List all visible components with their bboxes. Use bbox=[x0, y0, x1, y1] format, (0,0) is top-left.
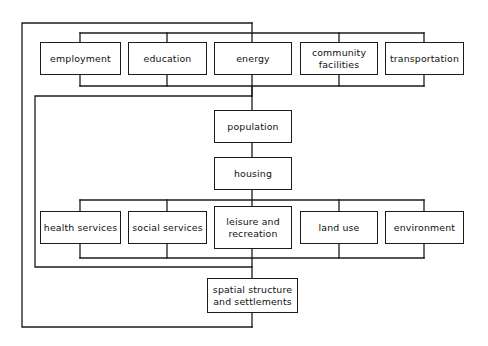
node-spatial-structure-and-settlements[interactable]: spatial structure and settlements bbox=[207, 278, 298, 313]
node-education[interactable]: education bbox=[128, 42, 207, 75]
node-label: land use bbox=[318, 222, 359, 234]
node-transportation[interactable]: transportation bbox=[385, 42, 464, 75]
node-label: community facilities bbox=[312, 47, 366, 71]
node-health-services[interactable]: health services bbox=[40, 211, 121, 244]
node-employment[interactable]: employment bbox=[40, 42, 121, 75]
node-label: energy bbox=[236, 53, 270, 65]
node-energy[interactable]: energy bbox=[214, 42, 292, 75]
node-leisure-and-recreation[interactable]: leisure and recreation bbox=[214, 206, 292, 249]
node-label: education bbox=[144, 53, 192, 65]
node-community-facilities[interactable]: community facilities bbox=[300, 42, 378, 75]
node-label: social services bbox=[132, 222, 202, 234]
node-label: transportation bbox=[390, 53, 459, 65]
node-social-services[interactable]: social services bbox=[128, 211, 207, 244]
node-label: housing bbox=[234, 168, 272, 180]
node-housing[interactable]: housing bbox=[214, 157, 292, 190]
node-population[interactable]: population bbox=[214, 110, 292, 143]
node-label: leisure and recreation bbox=[226, 216, 280, 240]
node-environment[interactable]: environment bbox=[385, 211, 464, 244]
node-label: environment bbox=[394, 222, 455, 234]
node-land-use[interactable]: land use bbox=[300, 211, 378, 244]
node-label: spatial structure and settlements bbox=[213, 284, 292, 308]
node-label: employment bbox=[50, 53, 111, 65]
node-label: health services bbox=[44, 222, 117, 234]
node-label: population bbox=[227, 121, 278, 133]
diagram-canvas: employment education energy community fa… bbox=[0, 0, 488, 346]
